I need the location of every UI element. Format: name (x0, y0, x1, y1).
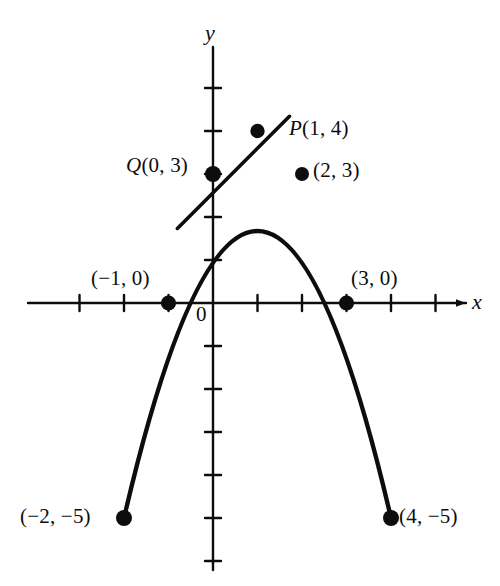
point-label-Q-coords: (0, 3) (141, 153, 188, 177)
x-axis-label: x (472, 291, 482, 313)
point-neg1-0 (161, 295, 176, 310)
data-points (116, 124, 399, 526)
point-label-P-symbol: P (289, 116, 302, 140)
origin-label: 0 (196, 304, 207, 325)
axes-group (28, 47, 466, 570)
point-Q-0-3 (205, 166, 221, 182)
point-neg2-neg5 (116, 510, 132, 526)
point-4-neg5 (383, 510, 399, 526)
graph-canvas (0, 0, 500, 586)
y-axis-label: y (205, 22, 215, 44)
point-label-4-neg5: (4, −5) (399, 506, 458, 527)
point-2-3 (295, 167, 309, 181)
point-P-1-4 (250, 124, 264, 138)
secant-line-PQ (177, 116, 289, 228)
point-label-Q-symbol: Q (126, 153, 141, 177)
point-3-0 (339, 295, 354, 310)
point-label-neg1-0: (−1, 0) (91, 268, 150, 289)
point-label-Q: Q(0, 3) (126, 155, 188, 176)
graph-figure: y x 0 P(1, 4) Q(0, 3) (2, 3) (−1, 0) (3,… (0, 0, 500, 586)
point-label-neg2-neg5: (−2, −5) (20, 506, 91, 527)
point-label-P-coords: (1, 4) (302, 116, 349, 140)
point-label-3-0: (3, 0) (351, 268, 398, 289)
point-label-2-3: (2, 3) (313, 160, 360, 181)
point-label-P: P(1, 4) (289, 118, 349, 139)
x-axis-arrow (456, 299, 466, 307)
